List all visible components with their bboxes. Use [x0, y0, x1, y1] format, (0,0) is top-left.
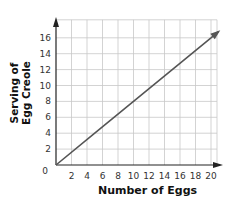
x-tick-label: 16: [174, 171, 186, 181]
y-tick-label: 2: [45, 144, 51, 154]
x-tick-label: 2: [69, 171, 75, 181]
y-tick-label: 4: [45, 128, 51, 138]
y-tick-label: 16: [40, 33, 52, 43]
x-axis-title: Number of Eggs: [98, 184, 197, 197]
x-tick-label: 12: [143, 171, 154, 181]
x-tick-label: 20: [205, 171, 217, 181]
line-chart: 24681012141618202468101214160: [0, 0, 236, 205]
y-tick-label: 14: [40, 49, 52, 59]
x-axis-arrow-icon: [213, 162, 223, 168]
origin-label: 0: [42, 166, 48, 176]
x-tick-label: 4: [84, 171, 90, 181]
y-tick-label: 12: [40, 65, 51, 75]
x-tick-label: 8: [115, 171, 121, 181]
y-tick-label: 6: [45, 112, 51, 122]
y-tick-label: 8: [45, 96, 51, 106]
x-tick-label: 6: [100, 171, 106, 181]
x-tick-label: 18: [190, 171, 202, 181]
y-axis-arrow-icon: [53, 17, 59, 27]
x-tick-label: 10: [128, 171, 140, 181]
y-tick-label: 10: [40, 81, 52, 91]
x-tick-label: 14: [159, 171, 171, 181]
